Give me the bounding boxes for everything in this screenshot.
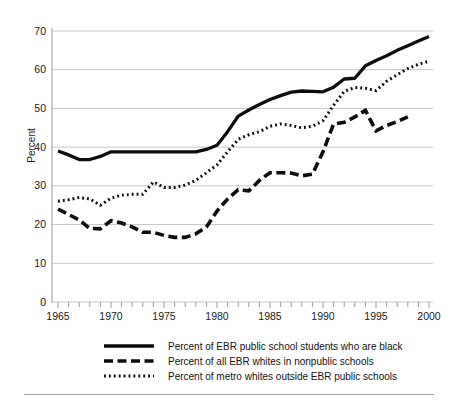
y-tick-labels-group: 010203040506070 (34, 25, 46, 308)
footer-divider (24, 394, 434, 395)
data-series-group (58, 36, 429, 237)
x-tick-marks-group (58, 302, 429, 308)
y-tick-label: 10 (34, 257, 46, 269)
series-line-3 (58, 61, 429, 205)
series-line-1 (58, 36, 429, 159)
line-chart-svg: 010203040506070 196519701975198019851990… (0, 0, 458, 404)
x-tick-label: 1995 (364, 310, 388, 322)
x-tick-label: 1980 (205, 310, 229, 322)
y-tick-label: 40 (34, 141, 46, 153)
x-tick-label: 2000 (417, 310, 441, 322)
y-tick-label: 30 (34, 179, 46, 191)
y-tick-label: 50 (34, 102, 46, 114)
x-tick-label: 1965 (46, 310, 70, 322)
y-tick-label: 70 (34, 25, 46, 37)
x-tick-label: 1975 (152, 310, 176, 322)
x-tick-label: 1990 (311, 310, 335, 322)
series-line-2 (58, 110, 408, 237)
legend-label-3: Percent of metro whites outside EBR publ… (168, 371, 397, 382)
y-tick-label: 20 (34, 218, 46, 230)
chart-figure: Percent 010203040506070 1965197019751980… (0, 0, 458, 404)
gridlines-group (52, 31, 433, 302)
legend-group: Percent of EBR public school students wh… (104, 341, 404, 382)
x-tick-labels-group: 19651970197519801985199019952000 (46, 310, 441, 322)
legend-label-1: Percent of EBR public school students wh… (168, 341, 404, 352)
x-tick-label: 1985 (258, 310, 282, 322)
x-tick-label: 1970 (99, 310, 123, 322)
y-tick-label: 60 (34, 63, 46, 75)
y-tick-label: 0 (40, 296, 46, 308)
legend-label-2: Percent of all EBR whites in nonpublic s… (168, 356, 374, 367)
